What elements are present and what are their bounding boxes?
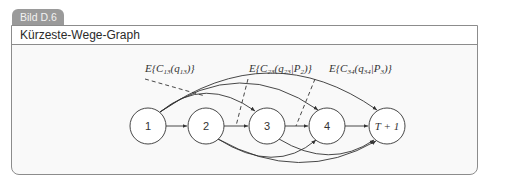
- node-1-label: 1: [145, 120, 151, 132]
- annotation-c23: E{C23(q23|P2)}: [248, 62, 313, 76]
- node-3-label: 3: [264, 120, 270, 132]
- annotation-pointer-c23: [236, 79, 248, 126]
- annotation-c13: E{C13(q13)}: [144, 62, 195, 76]
- annotation-c34: E{C34(q34|P3)}: [328, 62, 393, 76]
- node-T1-label: T + 1: [375, 120, 399, 132]
- node-2-label: 2: [203, 120, 209, 132]
- shortest-path-graph: E{C13(q13)} E{C23(q23|P2)} E{C34(q34|P3)…: [0, 0, 531, 185]
- node-4-label: 4: [324, 120, 330, 132]
- annotation-pointer-c13: [145, 79, 205, 96]
